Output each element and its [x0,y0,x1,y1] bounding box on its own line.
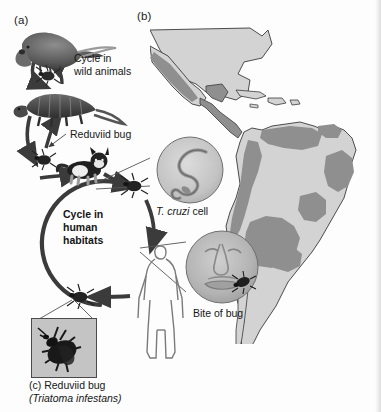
caption-c-label: (c) Reduviid bug [29,379,105,392]
label-human-cycle-line2: human [63,221,97,234]
reduviid-bug-wild-2 [32,149,56,170]
figure-chagas-cycle: (a) (b) [0,0,381,412]
label-human-cycle-line1: Cycle in [63,208,103,221]
label-t-cruzi-cell: T. cruzi cell [156,205,208,218]
bite-of-bug-inset [186,231,258,303]
label-wild-cycle-line1: Cycle in [74,52,111,65]
t-cruzi-cell-inset [157,137,223,203]
label-reduviid-bug: Reduviid bug [70,128,131,141]
reduviid-bug-human-1 [121,173,148,198]
cat-illustration [57,147,109,184]
label-wild-cycle-line2: wild animals [74,65,131,78]
label-bite-of-bug: Bite of bug [193,307,243,320]
reduviid-bug-photo [31,318,97,378]
human-figure [138,246,183,358]
t-cruzi-suffix: cell [189,205,208,217]
caption-c-species: (Triatoma infestans) [29,392,122,405]
armadillo-illustration [14,94,124,127]
bug-photo-content [32,319,96,377]
reduviid-bug-human-2 [67,284,94,309]
t-cruzi-genus: T. cruzi [156,205,189,217]
label-human-cycle-line3: habitats [63,234,103,247]
